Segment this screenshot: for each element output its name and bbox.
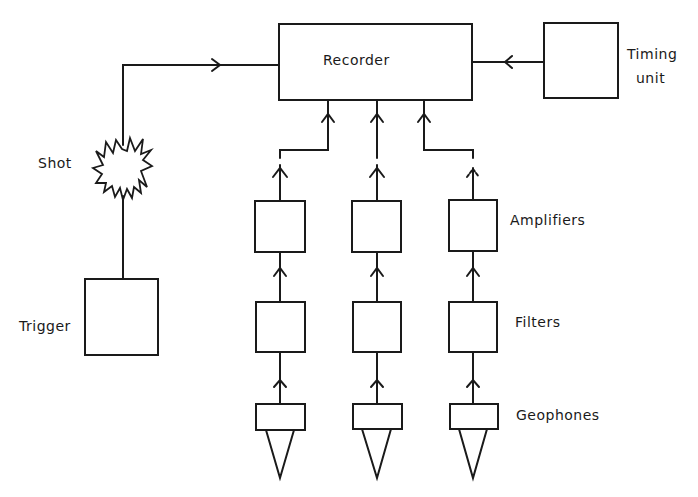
geophone-2-box	[353, 404, 402, 429]
filters-label: Filters	[515, 314, 560, 330]
channel-2	[352, 100, 402, 478]
shot-starburst-icon	[93, 138, 152, 200]
timing-to-recorder-connector	[472, 56, 544, 68]
recorder-label: Recorder	[323, 52, 390, 68]
geophone-1-spike-icon	[266, 430, 294, 478]
filter-2-box	[353, 302, 401, 352]
geophone-3-spike-icon	[459, 429, 487, 478]
amplifier-1-box	[255, 201, 305, 252]
timing-unit-box	[544, 23, 618, 98]
geophone-1-box	[256, 404, 305, 430]
timing-unit-label-line1: Timing	[627, 46, 677, 62]
channel-1	[255, 100, 334, 478]
geophones-label: Geophones	[516, 407, 600, 423]
shot-label: Shot	[38, 155, 72, 171]
amplifier-2-box	[352, 201, 401, 252]
amplifiers-label: Amplifiers	[510, 212, 585, 228]
trigger-label: Trigger	[19, 318, 71, 334]
channel-3	[418, 100, 498, 478]
timing-unit-label-line2: unit	[636, 70, 665, 86]
trigger-box	[85, 279, 158, 355]
filter-3-box	[449, 302, 497, 352]
shot-to-recorder-connector	[123, 59, 279, 145]
filter-1-box	[256, 302, 305, 352]
geophone-3-box	[450, 404, 498, 429]
geophone-2-spike-icon	[362, 429, 391, 478]
amplifier-3-box	[449, 200, 497, 251]
